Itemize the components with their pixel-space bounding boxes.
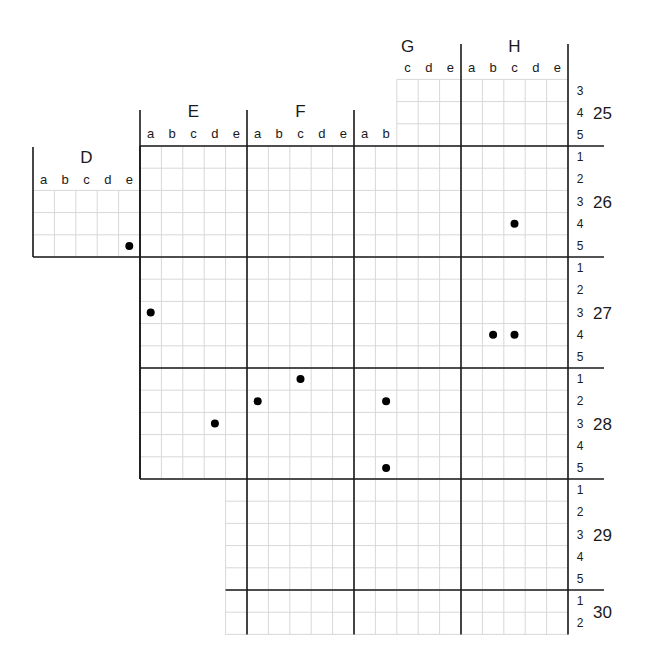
row-band-label-30: 30 [593, 603, 612, 622]
subcolumn-label-d-b: b [61, 172, 68, 187]
subcolumn-label-f-d: d [318, 126, 325, 141]
column-block-label-e: E [188, 102, 199, 121]
subrow-label-29-1: 1 [577, 483, 584, 497]
subcolumn-label-e-e: e [233, 126, 240, 141]
column-block-label-f: F [295, 102, 305, 121]
subrow-label-25-4: 4 [577, 106, 584, 120]
subcolumn-label-f-b: b [275, 126, 282, 141]
subcolumn-label-e-a: a [147, 126, 155, 141]
subrow-label-28-2: 2 [577, 394, 584, 408]
subcolumn-label-g-e: e [447, 60, 454, 75]
column-block-label-h: H [508, 37, 520, 56]
marked-cell-dot-fa-28-2 [254, 397, 262, 405]
subrow-label-30-1: 1 [577, 594, 584, 608]
row-band-label-26: 26 [593, 193, 612, 212]
marked-cell-dot-hc-26-4 [511, 220, 519, 228]
minor-grid-lines [33, 79, 568, 634]
subrow-label-26-3: 3 [577, 195, 584, 209]
marked-cell-dot-gb-28-2 [382, 397, 390, 405]
subcolumn-label-d-c: c [83, 172, 90, 187]
row-labels: 3452512345261234527123452812345291230 [577, 84, 612, 631]
subcolumn-label-h-c: c [511, 60, 518, 75]
marked-cell-dot-ed-28-3 [211, 420, 219, 428]
subrow-label-29-5: 5 [577, 572, 584, 586]
subcolumn-label-h-b: b [489, 60, 496, 75]
subrow-label-27-1: 1 [577, 261, 584, 275]
grid-diagram: DabcdeEabcdeFabcdeGabcdeHabcde 345251234… [0, 0, 646, 664]
subcolumn-label-h-a: a [468, 60, 476, 75]
subrow-label-26-5: 5 [577, 239, 584, 253]
subcolumn-label-g-b: b [382, 126, 389, 141]
marked-cell-dot-ea-27-3 [147, 309, 155, 317]
subcolumn-label-f-a: a [254, 126, 262, 141]
subcolumn-label-d-e: e [126, 172, 133, 187]
subrow-label-29-2: 2 [577, 505, 584, 519]
marked-cell-dot-gb-28-5 [382, 464, 390, 472]
subcolumn-label-e-c: c [190, 126, 197, 141]
marked-cell-dot-hb-27-4 [489, 331, 497, 339]
subrow-label-25-3: 3 [577, 84, 584, 98]
subrow-label-30-2: 2 [577, 616, 584, 630]
subrow-label-29-4: 4 [577, 550, 584, 564]
subrow-label-28-3: 3 [577, 417, 584, 431]
subrow-label-27-4: 4 [577, 328, 584, 342]
subcolumn-label-e-b: b [168, 126, 175, 141]
subrow-label-26-2: 2 [577, 172, 584, 186]
subcolumn-label-d-d: d [104, 172, 111, 187]
subcolumn-label-f-c: c [297, 126, 304, 141]
row-band-label-29: 29 [593, 526, 612, 545]
subrow-label-29-3: 3 [577, 528, 584, 542]
marked-cell-dot-hc-27-4 [511, 331, 519, 339]
marked-cell-dot-de-26-5 [125, 242, 133, 250]
subcolumn-label-e-d: d [211, 126, 218, 141]
subrow-label-28-5: 5 [577, 461, 584, 475]
subrow-label-27-5: 5 [577, 350, 584, 364]
row-band-label-25: 25 [593, 104, 612, 123]
subrow-label-28-4: 4 [577, 439, 584, 453]
marked-cell-dot-fc-28-1 [297, 375, 305, 383]
column-block-label-g: G [401, 37, 414, 56]
subrow-label-26-1: 1 [577, 150, 584, 164]
row-band-label-28: 28 [593, 415, 612, 434]
subrow-label-27-3: 3 [577, 306, 584, 320]
subcolumn-label-g-a: a [361, 126, 369, 141]
subcolumn-label-d-a: a [40, 172, 48, 187]
subcolumn-label-f-e: e [340, 126, 347, 141]
row-band-label-27: 27 [593, 304, 612, 323]
column-block-label-d: D [80, 148, 92, 167]
subcolumn-label-g-c: c [404, 60, 411, 75]
subcolumn-label-h-e: e [554, 60, 561, 75]
subrow-label-26-4: 4 [577, 217, 584, 231]
subcolumn-label-h-d: d [532, 60, 539, 75]
subrow-label-28-1: 1 [577, 372, 584, 386]
subrow-label-25-5: 5 [577, 128, 584, 142]
subrow-label-27-2: 2 [577, 283, 584, 297]
subcolumn-label-g-d: d [425, 60, 432, 75]
